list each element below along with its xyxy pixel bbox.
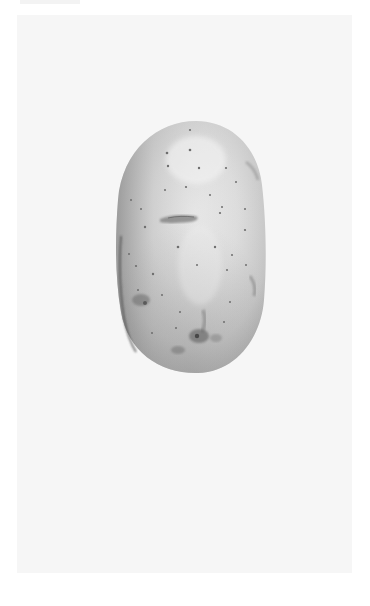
blemish-bottom-right	[210, 334, 222, 342]
blemish-bottom-left-dot	[143, 301, 147, 305]
potato-mid-highlight	[178, 225, 222, 305]
potato-highlight	[166, 136, 226, 184]
blemish-bottom-lower	[171, 346, 185, 354]
potato-illustration	[0, 0, 370, 606]
blemish-bottom-left	[132, 294, 150, 306]
blemish-bottom-center-dot	[195, 334, 199, 338]
potato-photo	[0, 0, 370, 606]
